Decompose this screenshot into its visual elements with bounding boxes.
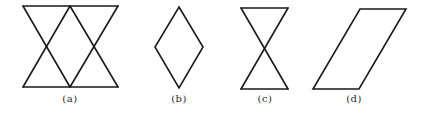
label-c: (c) — [258, 93, 273, 104]
shape-b-rhombus — [155, 7, 203, 88]
shape-c-hourglass — [241, 8, 288, 89]
label-d: (d) — [346, 93, 362, 104]
label-b: (b) — [171, 93, 187, 104]
label-a: (a) — [62, 93, 77, 104]
shape-a — [23, 6, 118, 87]
shape-d-parallelogram — [313, 9, 406, 89]
